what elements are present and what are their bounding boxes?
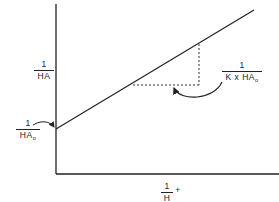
plot-canvas xyxy=(0,0,279,202)
y-axis-label: 1 HA xyxy=(34,60,54,81)
slope-label: 1 K x HAo xyxy=(222,61,262,85)
x-axis-label: 1 H xyxy=(161,182,173,202)
slope-arrow-icon xyxy=(174,82,222,97)
x-axis-label-suffix: + xyxy=(174,186,182,195)
intercept-label: 1 HAo xyxy=(16,119,40,143)
